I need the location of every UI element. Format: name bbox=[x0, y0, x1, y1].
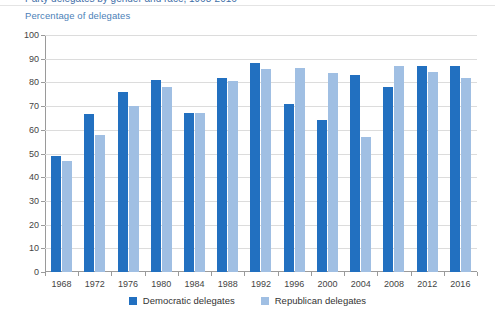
y-axis-title: Percentage of delegates bbox=[25, 10, 130, 21]
y-axis-tick-label: 30 bbox=[29, 196, 39, 206]
bar-republican-2004[interactable] bbox=[361, 137, 371, 272]
bar-group bbox=[111, 35, 144, 272]
bar-democratic-2016[interactable] bbox=[450, 66, 460, 272]
x-axis-tick-mark bbox=[211, 272, 212, 276]
x-axis-tick-label-2008: 2008 bbox=[384, 279, 404, 289]
bar-group bbox=[244, 35, 277, 272]
x-axis-tick-mark bbox=[45, 272, 46, 276]
bar-democratic-1984[interactable] bbox=[184, 113, 194, 272]
x-axis-tick-mark bbox=[477, 272, 478, 276]
bar-republican-1984[interactable] bbox=[195, 113, 205, 272]
bar-group bbox=[211, 35, 244, 272]
x-axis-tick-label-2004: 2004 bbox=[351, 279, 371, 289]
y-axis-tick-label: 70 bbox=[29, 101, 39, 111]
bar-republican-1976[interactable] bbox=[129, 106, 139, 272]
bar-democratic-2000[interactable] bbox=[317, 120, 327, 272]
bar-republican-1992[interactable] bbox=[261, 69, 271, 272]
y-axis-tick-label: 0 bbox=[34, 267, 39, 277]
bar-group bbox=[311, 35, 344, 272]
bar-group bbox=[411, 35, 444, 272]
x-axis-tick-label-1980: 1980 bbox=[151, 279, 171, 289]
bar-democratic-1980[interactable] bbox=[151, 80, 161, 272]
bar-democratic-2004[interactable] bbox=[350, 75, 360, 272]
bar-democratic-1996[interactable] bbox=[284, 104, 294, 272]
x-axis-tick-label-1984: 1984 bbox=[185, 279, 205, 289]
bar-group bbox=[45, 35, 78, 272]
bar-democratic-2008[interactable] bbox=[383, 87, 393, 272]
bar-democratic-1968[interactable] bbox=[51, 156, 61, 272]
bar-group bbox=[444, 35, 477, 272]
chart-container: Party delegates by gender and race, 1968… bbox=[0, 0, 495, 327]
legend-swatch-democratic-icon bbox=[129, 297, 137, 305]
x-axis-tick-mark bbox=[411, 272, 412, 276]
y-axis-tick-label: 60 bbox=[29, 125, 39, 135]
x-axis-tick-label-1988: 1988 bbox=[218, 279, 238, 289]
x-axis-tick-mark bbox=[111, 272, 112, 276]
x-axis-tick-label-1976: 1976 bbox=[118, 279, 138, 289]
bar-democratic-1992[interactable] bbox=[250, 63, 260, 272]
y-axis-tick-label: 90 bbox=[29, 54, 39, 64]
x-axis-tick-label-1996: 1996 bbox=[284, 279, 304, 289]
y-axis-tick-label: 100 bbox=[24, 30, 39, 40]
bar-group bbox=[278, 35, 311, 272]
bar-republican-1968[interactable] bbox=[62, 161, 72, 272]
x-axis-tick-mark bbox=[311, 272, 312, 276]
legend-item-democratic: Democratic delegates bbox=[129, 295, 235, 306]
legend-item-republican: Republican delegates bbox=[261, 295, 366, 306]
clipped-chart-title: Party delegates by gender and race, 1968… bbox=[25, 0, 237, 4]
chart-legend: Democratic delegates Republican delegate… bbox=[0, 295, 495, 306]
bar-group bbox=[344, 35, 377, 272]
bar-republican-2016[interactable] bbox=[461, 78, 471, 272]
bar-republican-1972[interactable] bbox=[95, 135, 105, 272]
legend-label-republican: Republican delegates bbox=[275, 295, 366, 306]
y-axis-tick-label: 80 bbox=[29, 77, 39, 87]
x-axis-tick-label-1968: 1968 bbox=[52, 279, 72, 289]
legend-swatch-republican-icon bbox=[261, 297, 269, 305]
x-axis-tick-mark bbox=[377, 272, 378, 276]
bar-democratic-1976[interactable] bbox=[118, 92, 128, 272]
bar-group bbox=[78, 35, 111, 272]
bar-republican-2012[interactable] bbox=[428, 72, 438, 272]
bar-republican-2008[interactable] bbox=[394, 66, 404, 272]
x-axis-tick-label-2000: 2000 bbox=[317, 279, 337, 289]
x-axis-tick-mark bbox=[344, 272, 345, 276]
bar-republican-1988[interactable] bbox=[228, 81, 238, 272]
legend-label-democratic: Democratic delegates bbox=[143, 295, 235, 306]
x-axis-tick-label-2012: 2012 bbox=[417, 279, 437, 289]
bar-democratic-1988[interactable] bbox=[217, 78, 227, 272]
header-divider bbox=[0, 5, 495, 6]
x-axis-tick-label-2016: 2016 bbox=[450, 279, 470, 289]
y-axis-tick-label: 10 bbox=[29, 243, 39, 253]
bar-group bbox=[145, 35, 178, 272]
y-axis-tick-label: 20 bbox=[29, 220, 39, 230]
x-axis-tick-mark bbox=[444, 272, 445, 276]
x-axis-tick-mark bbox=[278, 272, 279, 276]
bar-republican-2000[interactable] bbox=[328, 73, 338, 272]
x-axis-tick-mark bbox=[78, 272, 79, 276]
bar-republican-1996[interactable] bbox=[295, 68, 305, 272]
y-axis-tick-label: 50 bbox=[29, 149, 39, 159]
x-axis-tick-mark bbox=[178, 272, 179, 276]
bar-republican-1980[interactable] bbox=[162, 87, 172, 272]
x-axis-tick-label-1992: 1992 bbox=[251, 279, 271, 289]
bar-group bbox=[178, 35, 211, 272]
bar-democratic-1972[interactable] bbox=[84, 114, 94, 272]
x-axis-tick-mark bbox=[244, 272, 245, 276]
plot-area: 0102030405060708090100196819721976198019… bbox=[45, 35, 477, 272]
x-axis-tick-label-1972: 1972 bbox=[85, 279, 105, 289]
bar-group bbox=[377, 35, 410, 272]
y-axis-tick-label: 40 bbox=[29, 172, 39, 182]
bar-democratic-2012[interactable] bbox=[417, 66, 427, 272]
x-axis-tick-mark bbox=[145, 272, 146, 276]
